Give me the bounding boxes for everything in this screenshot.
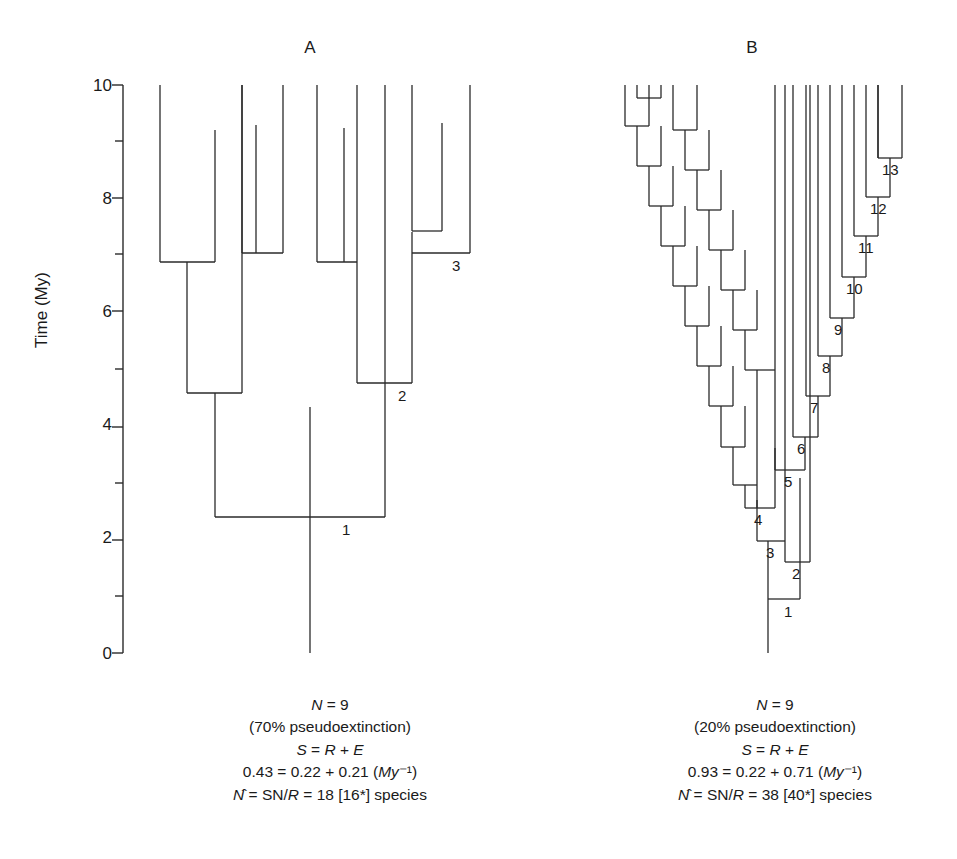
caption-a-line2: (70% pseudoextinction) [140, 716, 520, 738]
caption-a-line1: N = 9 [140, 694, 520, 716]
node-label-b-4: 4 [754, 512, 762, 527]
node-label-a-2: 2 [398, 388, 406, 403]
node-label-a-1: 1 [342, 522, 350, 537]
node-label-b-1: 1 [784, 604, 792, 619]
caption-b-line4: 0.93 = 0.22 + 0.71 (My⁻¹) [585, 761, 957, 783]
caption-panel-a: N = 9 (70% pseudoextinction) S = R + E 0… [140, 694, 520, 806]
caption-b-line3: S = R + E [585, 739, 957, 761]
tree-a [160, 85, 470, 653]
caption-b-line2: (20% pseudoextinction) [585, 716, 957, 738]
node-label-b-2: 2 [792, 566, 800, 581]
node-label-b-12: 12 [870, 201, 887, 216]
node-label-b-13: 13 [882, 162, 899, 177]
tree-b [625, 85, 902, 653]
caption-panel-b: N = 9 (20% pseudoextinction) S = R + E 0… [585, 694, 957, 806]
node-label-b-6: 6 [797, 441, 805, 456]
figure-phylogenetic-trees: A B Time (My) 10 8 6 4 2 0 [0, 0, 957, 859]
caption-a-line4: 0.43 = 0.22 + 0.21 (My⁻¹) [140, 761, 520, 783]
caption-a-line5: N̂ = SN/R = 18 [16*] species [140, 784, 520, 806]
y-axis [112, 85, 123, 653]
node-label-b-11: 11 [858, 240, 874, 255]
node-label-b-10: 10 [846, 281, 863, 296]
node-label-b-9: 9 [834, 322, 842, 337]
caption-b-line5: N̂ = SN/R = 38 [40*] species [585, 784, 957, 806]
caption-a-line3: S = R + E [140, 739, 520, 761]
node-label-a-3: 3 [452, 258, 460, 273]
caption-b-line1: N = 9 [585, 694, 957, 716]
node-label-b-3: 3 [766, 545, 774, 560]
node-label-b-5: 5 [784, 474, 792, 489]
node-label-b-8: 8 [822, 360, 830, 375]
node-label-b-7: 7 [810, 400, 818, 415]
